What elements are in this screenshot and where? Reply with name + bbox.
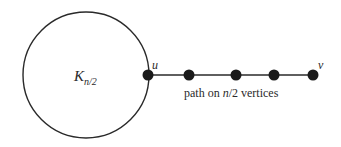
path-vertex <box>269 70 280 81</box>
path-vertex <box>231 70 242 81</box>
clique-circle <box>23 12 149 138</box>
vertex-v-label: v <box>318 58 324 72</box>
path-vertex <box>184 70 195 81</box>
clique-label: Kn/2 <box>73 68 97 87</box>
vertex-u-label: u <box>152 58 158 72</box>
path-label: path on n/2 vertices <box>184 86 279 100</box>
graph-diagram: Kn/2 u v path on n/2 vertices <box>0 0 341 147</box>
vertex-v <box>308 70 319 81</box>
